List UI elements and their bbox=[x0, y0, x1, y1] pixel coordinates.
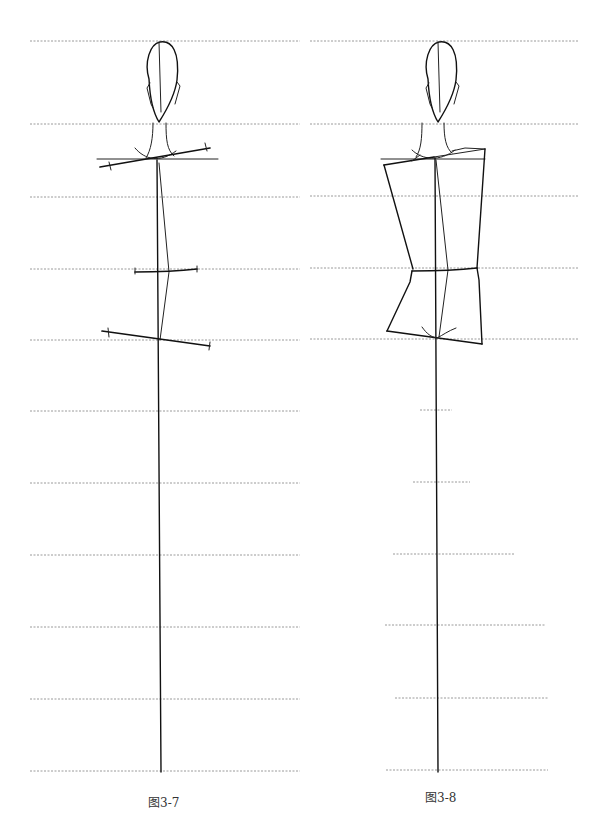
croquis-diagrams bbox=[0, 0, 596, 834]
torso-left-side bbox=[384, 165, 413, 269]
guide-lines-right bbox=[310, 41, 578, 770]
hip-slant bbox=[102, 331, 210, 346]
hip-tick-left bbox=[108, 328, 109, 337]
shoulder-slant-right bbox=[434, 149, 485, 157]
neck-right bbox=[166, 123, 174, 156]
shoulder-slant bbox=[100, 148, 210, 167]
neck-left bbox=[146, 123, 153, 158]
head-outline bbox=[147, 42, 177, 122]
torso-offset-line bbox=[436, 160, 448, 337]
figure-3-8 bbox=[310, 41, 578, 772]
center-balance-line bbox=[157, 160, 161, 772]
torso-offset-line bbox=[159, 163, 169, 340]
hip-right-side bbox=[477, 268, 482, 344]
shoulder-slant-left bbox=[384, 157, 434, 165]
waist-line bbox=[135, 269, 197, 272]
guide-lines-left bbox=[30, 41, 300, 771]
neck-left bbox=[416, 123, 422, 157]
head-center-line bbox=[159, 42, 161, 112]
hip-left-side bbox=[387, 271, 412, 331]
caption-fig-3-8: 图3-8 bbox=[425, 788, 456, 805]
center-balance-line bbox=[435, 158, 438, 772]
caption-fig-3-7: 图3-7 bbox=[148, 793, 179, 810]
hip-tick-right bbox=[209, 342, 210, 350]
shoulder-tick-right bbox=[205, 143, 207, 151]
neck-right bbox=[444, 123, 452, 153]
figure-3-7 bbox=[30, 41, 300, 772]
head-center-line bbox=[438, 42, 440, 112]
head-outline bbox=[426, 42, 456, 122]
torso-right-side bbox=[477, 149, 485, 268]
